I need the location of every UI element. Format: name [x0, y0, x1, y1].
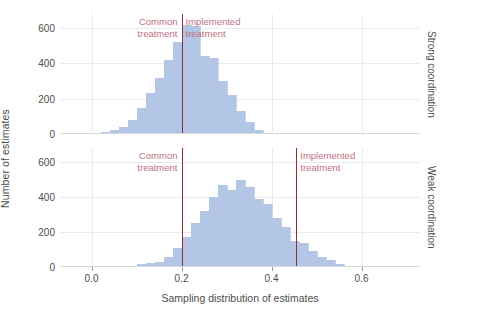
- reference-line: [182, 148, 183, 267]
- x-tick-mark: [362, 267, 363, 271]
- facet-strip-weak-label: Weak coordination: [426, 166, 437, 249]
- y-tick-label: 0: [3, 262, 55, 273]
- y-tick-label: 200: [3, 227, 55, 238]
- panel-strong-coordination: Common treatmentImplemented treatment: [60, 14, 420, 134]
- x-tick-mark: [182, 267, 183, 271]
- gridline-horizontal: [60, 162, 420, 163]
- annotation-label: Implemented treatment: [186, 16, 241, 39]
- gridline-vertical: [362, 14, 363, 134]
- facet-strip-strong-label: Strong coordination: [426, 31, 437, 118]
- reference-line: [296, 148, 297, 267]
- y-tick-label: 0: [3, 129, 55, 140]
- y-tick-label: 400: [3, 192, 55, 203]
- gridline-horizontal: [60, 99, 420, 100]
- x-tick-mark: [272, 267, 273, 271]
- axis-baseline-strong: [60, 133, 420, 134]
- gridline-vertical: [362, 148, 363, 267]
- facet-strip-weak: Weak coordination: [422, 148, 440, 267]
- y-axis-ticks-weak: 0200400600: [0, 148, 55, 267]
- y-tick-label: 200: [3, 93, 55, 104]
- x-tick-label: 0.4: [265, 273, 279, 284]
- panel-weak-coordination: Common treatmentImplemented treatment: [60, 148, 420, 267]
- gridline-horizontal: [60, 63, 420, 64]
- gridline-vertical: [92, 14, 93, 134]
- annotation-label: Implemented treatment: [300, 150, 355, 173]
- plot-area-strong: Common treatmentImplemented treatment: [60, 14, 420, 134]
- gridline-vertical: [272, 14, 273, 134]
- y-axis-ticks-strong: 0200400600: [0, 14, 55, 134]
- y-tick-label: 400: [3, 58, 55, 69]
- x-axis-title: Sampling distribution of estimates: [60, 292, 420, 304]
- facet-strip-strong: Strong coordination: [422, 14, 440, 134]
- annotation-label: Common treatment: [137, 150, 177, 173]
- plot-area-weak: Common treatmentImplemented treatment: [60, 148, 420, 267]
- chart-figure: Number of estimates 0200400600 020040060…: [0, 0, 497, 317]
- x-tick-mark: [92, 267, 93, 271]
- x-tick-label: 0.2: [175, 273, 189, 284]
- x-axis: 0.00.20.40.6: [60, 267, 420, 289]
- gridline-vertical: [92, 148, 93, 267]
- annotation-label: Common treatment: [137, 16, 177, 39]
- x-tick-label: 0.0: [85, 273, 99, 284]
- reference-line: [182, 14, 183, 134]
- x-tick-label: 0.6: [355, 273, 369, 284]
- y-tick-label: 600: [3, 23, 55, 34]
- y-tick-label: 600: [3, 157, 55, 168]
